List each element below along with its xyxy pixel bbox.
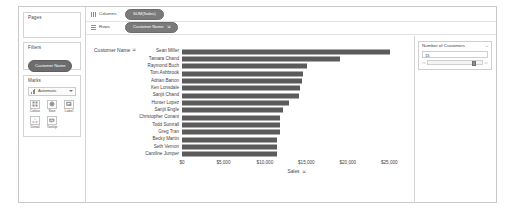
- chart-bar-track: [182, 129, 410, 136]
- marks-button-detail-label: Detail: [28, 126, 42, 130]
- chart-row-label: Raymond Buch: [86, 64, 182, 69]
- chart-bar[interactable]: [182, 49, 390, 54]
- chart-bar[interactable]: [182, 64, 307, 69]
- marks-button-detail[interactable]: Detail: [28, 116, 42, 130]
- chart-row[interactable]: Tamara Chand: [86, 55, 410, 62]
- parameter-slider[interactable]: ◅ ▻: [422, 60, 488, 65]
- columns-icon: [91, 12, 96, 17]
- x-axis-tick-label: $20,000: [340, 161, 357, 166]
- chart-bar[interactable]: [182, 137, 277, 142]
- marks-button-label-label: Label: [62, 110, 76, 114]
- slider-rail[interactable]: [427, 60, 483, 65]
- chevron-down-icon[interactable]: [69, 90, 73, 92]
- slider-right-arrow-icon[interactable]: ▻: [485, 61, 488, 65]
- chart-bar-track: [182, 92, 410, 99]
- x-axis-tick-label: $10,000: [257, 161, 274, 166]
- chart-row[interactable]: Sanjit Engle: [86, 107, 410, 114]
- chart-row[interactable]: Hunter Lopez: [86, 99, 410, 106]
- chart-bar-track: [182, 136, 410, 143]
- filters-card-body: Customer Name: [24, 53, 80, 76]
- right-panel: Number of Customers ⌄ 15 ◅ ▻: [414, 36, 496, 202]
- filters-card[interactable]: Filters Customer Name: [23, 42, 81, 70]
- x-axis: $0$5,000$10,000$15,000$20,000$25,000 Sal…: [182, 160, 410, 180]
- marks-button-label[interactable]: Label: [62, 100, 76, 114]
- x-axis-ticks: $0$5,000$10,000$15,000$20,000$25,000: [182, 160, 410, 168]
- chart-row[interactable]: Sean Miller: [86, 48, 410, 55]
- chart-row-label: Tamara Chand: [86, 57, 182, 62]
- chart-bar[interactable]: [182, 78, 302, 83]
- chart-bar-track: [182, 143, 410, 150]
- chart-bar[interactable]: [182, 86, 300, 91]
- slider-left-arrow-icon[interactable]: ◅: [422, 61, 425, 65]
- marks-button-tooltip-label: Tooltip: [45, 126, 59, 130]
- chart-row-label: Tom Ashbrook: [86, 71, 182, 76]
- chart-bar-track: [182, 55, 410, 62]
- chart-bar[interactable]: [182, 100, 289, 105]
- shelf-pill-sum-sales[interactable]: SUM(Sales): [125, 9, 164, 20]
- chart-row-label: Todd Sumrall: [86, 123, 182, 128]
- sort-descending-icon[interactable]: ⇲: [167, 25, 170, 29]
- marks-button-size[interactable]: Size: [45, 100, 59, 114]
- filter-pill-customer-name[interactable]: Customer Name: [28, 60, 72, 72]
- columns-shelf[interactable]: Columns SUM(Sales): [86, 8, 496, 22]
- chart-bar[interactable]: [182, 93, 299, 98]
- chart-row[interactable]: Seth Vernon: [86, 143, 410, 150]
- parameter-value-input[interactable]: 15: [422, 51, 488, 58]
- chart-bar-track: [182, 107, 410, 114]
- mark-type-label: Automatic: [38, 89, 67, 93]
- chart-bar[interactable]: [182, 130, 280, 135]
- bar-chart-icon: [31, 89, 36, 94]
- marks-button-colour[interactable]: Colour: [28, 100, 42, 114]
- chart-bar[interactable]: [182, 108, 283, 113]
- chevron-down-icon[interactable]: ⌄: [485, 44, 488, 48]
- chart-row[interactable]: Todd Sumrall: [86, 121, 410, 128]
- chart-row-label: Sanjit Chand: [86, 93, 182, 98]
- chart-bar-track: [182, 85, 410, 92]
- shelf-pill-customer-name[interactable]: Customer Name ⇲: [125, 22, 178, 33]
- chart-row-label: Sean Miller: [86, 49, 182, 54]
- marks-card[interactable]: Marks Automatic Colour: [23, 75, 81, 137]
- chart-row-label: Hunter Lopez: [86, 101, 182, 106]
- slider-thumb[interactable]: [472, 61, 476, 66]
- label-icon: [64, 100, 74, 109]
- shelf-pill-sum-sales-label: SUM(Sales): [133, 12, 156, 16]
- chart-bar[interactable]: [182, 152, 277, 157]
- x-axis-tick-label: $15,000: [298, 161, 315, 166]
- pages-card[interactable]: Pages: [23, 12, 81, 38]
- chart-row[interactable]: Tom Ashbrook: [86, 70, 410, 77]
- rows-icon: [91, 25, 96, 30]
- chart-row[interactable]: Caroline Jumper: [86, 151, 410, 158]
- chart-bar-track: [182, 48, 410, 55]
- chart-bar[interactable]: [182, 56, 340, 61]
- shelf-pill-customer-name-label: Customer Name: [133, 25, 163, 29]
- sort-descending-icon[interactable]: ⇲: [302, 170, 305, 174]
- chart-row[interactable]: Sanjit Chand: [86, 92, 410, 99]
- chart-row[interactable]: Greg Tran: [86, 129, 410, 136]
- rows-shelf[interactable]: Rows Customer Name ⇲: [86, 21, 496, 35]
- chart-row-label: Becky Martin: [86, 137, 182, 142]
- chart-bar[interactable]: [182, 144, 277, 149]
- filters-card-title: Filters: [24, 43, 80, 53]
- chart-bar[interactable]: [182, 71, 303, 76]
- chart-row[interactable]: Ken Lonsdale: [86, 85, 410, 92]
- detail-icon: [30, 116, 40, 125]
- chart-row[interactable]: Adrian Barton: [86, 77, 410, 84]
- chart-bar-track: [182, 77, 410, 84]
- chart-bar[interactable]: [182, 115, 280, 120]
- parameter-control-card[interactable]: Number of Customers ⌄ 15 ◅ ▻: [418, 41, 492, 70]
- mark-type-select[interactable]: Automatic: [28, 87, 76, 96]
- x-axis-title[interactable]: Sales ⇲: [182, 170, 410, 175]
- chart-row-label: Christopher Conant: [86, 115, 182, 120]
- chart-row-label: Sanjit Engle: [86, 108, 182, 113]
- chart-row-label: Greg Tran: [86, 130, 182, 135]
- chart-row-label: Caroline Jumper: [86, 152, 182, 157]
- chart-row[interactable]: Raymond Buch: [86, 63, 410, 70]
- chart-row[interactable]: Becky Martin: [86, 136, 410, 143]
- chart-row-label: Adrian Barton: [86, 79, 182, 84]
- pages-card-title: Pages: [24, 13, 80, 23]
- tableau-window: Pages Filters Customer Name Marks Automa…: [18, 6, 497, 203]
- chart-row[interactable]: Christopher Conant: [86, 114, 410, 121]
- x-axis-tick-label: $5,000: [216, 161, 230, 166]
- marks-button-tooltip[interactable]: Tooltip: [45, 116, 59, 130]
- chart-bar[interactable]: [182, 122, 280, 127]
